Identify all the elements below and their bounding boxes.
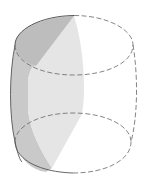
barrel-diagram: Barrel-shaped solid (bulging cylinder) w… xyxy=(0,0,150,182)
barrel-svg xyxy=(0,0,150,182)
right-side-outline xyxy=(131,45,137,142)
bottom-ellipse-dashed-bottom xyxy=(73,142,131,173)
